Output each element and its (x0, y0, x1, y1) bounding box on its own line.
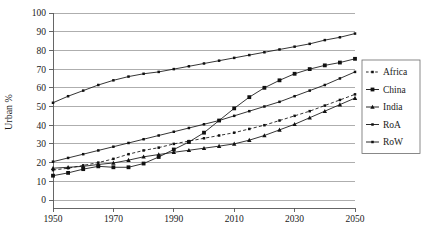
y-tick-labels: 0102030405060708090100 (32, 8, 47, 205)
marker-roa (248, 110, 251, 113)
legend-label-roa: RoA (383, 120, 401, 130)
marker-africa (157, 146, 160, 149)
marker-china (51, 174, 55, 178)
marker-china (247, 95, 251, 99)
marker-roa (218, 119, 221, 122)
marker-row (293, 45, 296, 48)
x-tick-label: 2030 (285, 214, 304, 224)
x-tick-labels: 195019701990201020302050 (44, 214, 365, 224)
marker-china (353, 57, 357, 61)
marker-africa (308, 110, 311, 113)
marker-row (142, 73, 145, 76)
marker-roa (142, 138, 145, 141)
marker-africa (248, 128, 251, 131)
marker-roa (278, 101, 281, 104)
legend-marker-africa (371, 71, 374, 74)
marker-roa (293, 95, 296, 98)
marker-row (173, 68, 176, 71)
gridlines (53, 13, 355, 200)
y-tick-label: 10 (37, 177, 47, 187)
marker-roa (354, 71, 357, 74)
marker-row (52, 102, 55, 105)
y-tick-label: 60 (37, 83, 47, 93)
marker-row (188, 65, 191, 68)
marker-roa (173, 130, 176, 133)
marker-roa (82, 153, 85, 156)
marker-roa (97, 149, 100, 152)
y-tick-label: 30 (37, 139, 47, 149)
marker-india (353, 96, 357, 100)
y-axis-title-text: Urban % (3, 94, 14, 130)
marker-row (67, 95, 70, 98)
marker-row (97, 84, 100, 87)
marker-roa (157, 134, 160, 137)
marker-china (323, 63, 327, 67)
marker-roa (308, 89, 311, 92)
marker-africa (354, 93, 357, 96)
marker-africa (278, 119, 281, 122)
marker-roa (203, 123, 206, 126)
marker-roa (339, 77, 342, 80)
y-tick-label: 100 (32, 8, 47, 18)
marker-row (278, 48, 281, 51)
y-tick-label: 0 (41, 195, 46, 205)
x-tick-label: 2050 (346, 214, 365, 224)
x-tick-label: 1950 (44, 214, 63, 224)
marker-africa (112, 158, 115, 161)
marker-africa (324, 104, 327, 107)
marker-africa (127, 153, 130, 156)
marker-china (187, 140, 191, 144)
marker-row (308, 43, 311, 46)
marker-roa (324, 84, 327, 87)
marker-row (157, 71, 160, 74)
legend-marker-roa (371, 123, 374, 126)
marker-china (112, 165, 116, 169)
marker-row (82, 89, 85, 92)
marker-africa (203, 137, 206, 140)
marker-china (66, 171, 70, 175)
x-tick-label: 1990 (164, 214, 183, 224)
marker-roa (263, 105, 266, 108)
data-series (51, 32, 357, 177)
y-tick-label: 40 (37, 121, 47, 131)
marker-china (308, 67, 312, 71)
legend-marker-row (371, 141, 374, 144)
marker-row (354, 32, 357, 35)
marker-africa (263, 124, 266, 127)
line-chart: 0102030405060708090100 19501970199020102… (0, 0, 423, 225)
marker-row (112, 79, 115, 82)
marker-china (263, 86, 267, 90)
marker-africa (218, 134, 221, 137)
marker-roa (127, 142, 130, 145)
y-axis (49, 13, 53, 208)
chart-container: 0102030405060708090100 19501970199020102… (0, 0, 423, 225)
marker-china (293, 72, 297, 76)
x-axis (53, 208, 355, 212)
marker-africa (293, 115, 296, 118)
marker-row (339, 36, 342, 39)
marker-row (263, 51, 266, 54)
marker-africa (233, 131, 236, 134)
x-tick-label: 1970 (104, 214, 123, 224)
y-tick-label: 70 (37, 65, 47, 75)
marker-roa (233, 115, 236, 118)
marker-row (324, 39, 327, 42)
x-tick-label: 2010 (225, 214, 244, 224)
legend-label-india: India (383, 102, 403, 112)
marker-china (232, 106, 236, 110)
y-tick-label: 20 (37, 158, 47, 168)
marker-roa (188, 127, 191, 130)
marker-row (218, 59, 221, 62)
marker-roa (52, 160, 55, 163)
y-axis-title: Urban % (3, 94, 14, 130)
marker-africa (339, 99, 342, 102)
marker-china (278, 78, 282, 82)
marker-china (142, 162, 146, 166)
marker-china (338, 61, 342, 65)
marker-africa (142, 149, 145, 152)
marker-row (233, 57, 236, 60)
y-tick-label: 80 (37, 46, 47, 56)
y-tick-label: 90 (37, 27, 47, 37)
marker-row (203, 62, 206, 65)
legend-label-africa: Africa (383, 67, 408, 77)
